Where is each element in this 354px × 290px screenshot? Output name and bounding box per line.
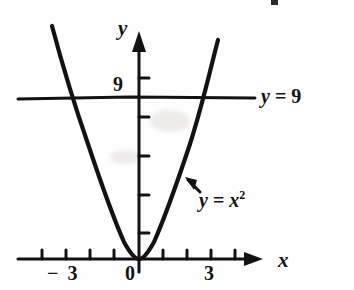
annotation-curve-operator: = — [208, 189, 229, 211]
annotation-line-rhs: 9 — [291, 85, 301, 107]
plot-canvas — [0, 0, 354, 290]
x-tick-label-3: 3 — [204, 263, 214, 283]
x-axis-arrowhead — [244, 252, 263, 266]
curve-y-equals-x-squared — [52, 26, 218, 259]
annotation-curve-lhs: y — [199, 189, 208, 211]
line-y-equals-9 — [18, 97, 255, 99]
y-axis-label: y — [118, 18, 127, 39]
annotation-line-lhs: y — [261, 85, 270, 107]
y-axis-arrowhead — [132, 31, 146, 52]
annotation-line-operator: = — [270, 85, 291, 107]
parabola-figure: y x 9 − 3 0 3 y=9 y=x2 — [0, 0, 354, 290]
y-tick-label-9: 9 — [113, 74, 123, 94]
x-axis-label: x — [278, 250, 289, 271]
annotation-curve-base: x — [229, 189, 239, 211]
annotation-curve-equation: y=x2 — [199, 189, 245, 210]
curve-pointer-arrow-icon — [185, 177, 200, 192]
origin-label: 0 — [125, 263, 135, 283]
annotation-curve-exponent: 2 — [239, 188, 245, 202]
y-axis — [132, 31, 149, 272]
annotation-line-equation: y=9 — [261, 86, 301, 106]
x-tick-label-neg3: − 3 — [47, 263, 79, 283]
